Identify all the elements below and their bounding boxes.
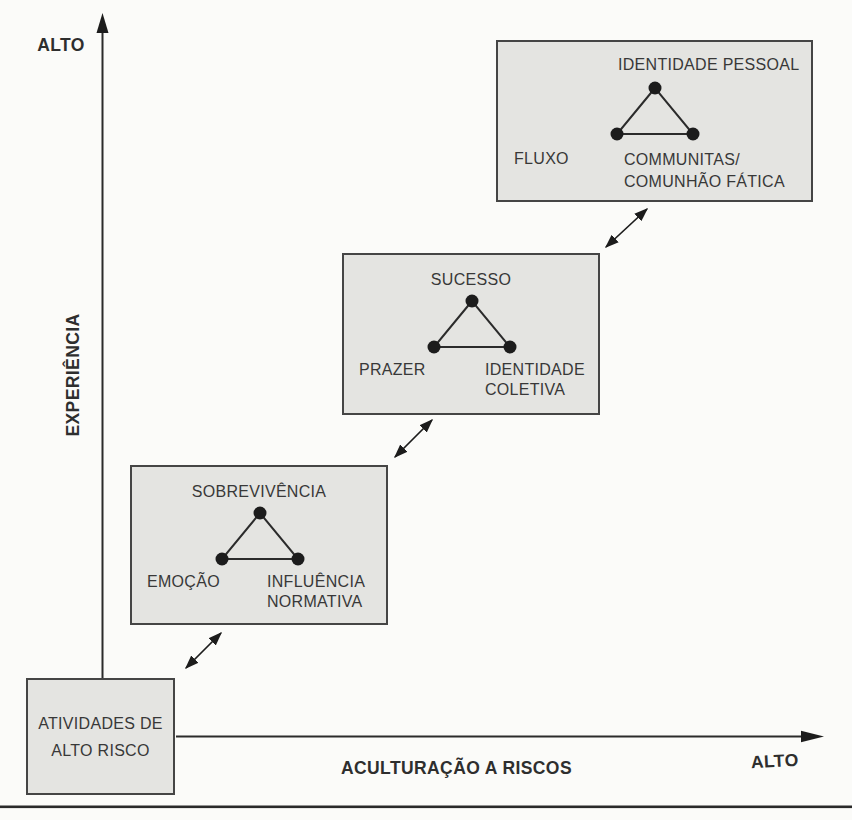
triangle-right-label-line-1: COMMUNITAS/ xyxy=(624,149,785,171)
triangle-right-label: IDENTIDADE COLETIVA xyxy=(485,360,585,400)
x-axis-title: ACULTURAÇÃO A RISCOS xyxy=(341,758,572,779)
y-axis-arrowhead-icon xyxy=(97,13,109,33)
connector-arrow-stage1-stage2 xyxy=(186,633,221,668)
bottom-rule xyxy=(0,806,852,809)
vertex-dot-left xyxy=(428,341,441,354)
triangle-left-label: PRAZER xyxy=(359,360,426,380)
vertex-dot-left xyxy=(216,553,229,566)
vertex-dot-left xyxy=(611,128,624,141)
stage-box-fluxo-communitas: IDENTIDADE PESSOAL FLUXO COMMUNITAS/ COM… xyxy=(496,40,813,202)
y-axis-title: EXPERIÊNCIA xyxy=(63,313,84,436)
triangle-edges xyxy=(434,301,510,347)
figure-canvas: ALTO EXPERIÊNCIA ACULTURAÇÃO A RISCOS AL… xyxy=(0,0,852,820)
y-axis-high-label: ALTO xyxy=(31,35,91,56)
stage-box-atividades-de-alto-risco: ATIVIDADES DE ALTO RISCO xyxy=(26,678,175,795)
stage-title-line-1: ATIVIDADES DE xyxy=(38,710,163,737)
vertex-dot-right xyxy=(504,341,517,354)
connector-arrow-stage3-stage4 xyxy=(606,209,647,247)
triangle-right-label: COMMUNITAS/ COMUNHÃO FÁTICA xyxy=(624,149,785,193)
triangle-left-label: EMOÇÃO xyxy=(147,572,220,592)
triangle-edges xyxy=(222,513,298,559)
triangle-diagram xyxy=(607,78,703,144)
vertex-dot-top xyxy=(466,295,479,308)
vertex-dot-right xyxy=(292,553,305,566)
triangle-right-label-line-2: COLETIVA xyxy=(485,380,585,400)
triangle-right-label-line-1: IDENTIDADE xyxy=(485,360,585,380)
triangle-edges xyxy=(617,88,693,134)
triangle-diagram xyxy=(424,291,520,357)
x-axis-arrowhead-icon xyxy=(801,731,824,742)
triangle-diagram xyxy=(212,503,308,569)
triangle-top-label: IDENTIDADE PESSOAL xyxy=(618,55,799,75)
vertex-dot-top xyxy=(649,82,662,95)
triangle-top-label: SUCESSO xyxy=(344,270,598,290)
x-axis-high-label: ALTO xyxy=(750,750,799,773)
connector-arrow-stage2-stage3 xyxy=(395,420,432,457)
triangle-left-label: FLUXO xyxy=(514,149,569,169)
triangle-top-label: SOBREVIVÊNCIA xyxy=(132,482,386,502)
triangle-right-label-line-2: NORMATIVA xyxy=(267,592,365,612)
stage-box-sobrevivencia: SOBREVIVÊNCIA EMOÇÃO INFLUÊNCIA NORMATIV… xyxy=(130,465,388,625)
stage-box-sucesso: SUCESSO PRAZER IDENTIDADE COLETIVA xyxy=(342,253,600,415)
vertex-dot-top xyxy=(254,507,267,520)
triangle-right-label: INFLUÊNCIA NORMATIVA xyxy=(267,572,365,612)
vertex-dot-right xyxy=(687,128,700,141)
stage-title-line-2: ALTO RISCO xyxy=(51,737,149,764)
triangle-right-label-line-2: COMUNHÃO FÁTICA xyxy=(624,171,785,193)
triangle-right-label-line-1: INFLUÊNCIA xyxy=(267,572,365,592)
